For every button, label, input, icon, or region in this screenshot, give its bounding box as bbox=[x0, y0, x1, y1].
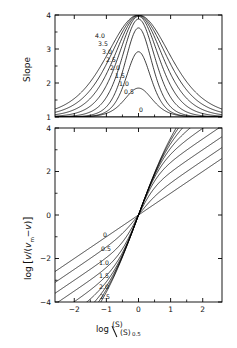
ytick-label: 1 bbox=[46, 113, 51, 122]
xlabel-log: log bbox=[96, 324, 109, 334]
xtick-label: 2 bbox=[200, 305, 205, 314]
ytick-label: 2 bbox=[46, 79, 51, 88]
top-panel-frame bbox=[55, 15, 222, 117]
top-panel: 1234 bbox=[46, 11, 222, 122]
ytick-label: −4 bbox=[40, 298, 51, 307]
top-curve-label-3.0: 3.0 bbox=[102, 48, 112, 55]
ylabel-vm-sub: m bbox=[29, 237, 35, 242]
xtick-label: 0 bbox=[136, 305, 141, 314]
xtick-label: −1 bbox=[101, 305, 112, 314]
top-curve-4.0 bbox=[55, 15, 222, 109]
ytick-label: 4 bbox=[46, 124, 51, 133]
bottom-curve-label-2.0: 2.0 bbox=[99, 283, 109, 290]
top-curve-label-3.5: 3.5 bbox=[98, 40, 108, 47]
top-curve-label-0.5: 0.5 bbox=[124, 88, 134, 95]
bottom-panel: −4−2024−2−1012 bbox=[40, 106, 222, 323]
bottom-curve-label-1.5: 1.5 bbox=[99, 272, 109, 279]
top-curve-2.5 bbox=[55, 16, 222, 116]
top-curve-label-4.0: 4.0 bbox=[95, 32, 105, 39]
figure-canvas: 1234 −4−2024−2−1012 bbox=[0, 0, 237, 348]
xlabel-denominator: (S) bbox=[120, 328, 131, 337]
bottom-panel-ylabel: log [v/(vm−v)] bbox=[21, 217, 35, 280]
ylabel-vm: v bbox=[23, 243, 33, 248]
bottom-curve-4.0 bbox=[86, 106, 191, 323]
ytick-label: 4 bbox=[46, 11, 51, 20]
xtick-label: −2 bbox=[69, 305, 80, 314]
top-curve-label-1.5: 1.5 bbox=[115, 72, 125, 79]
top-curve-label-0: 0 bbox=[139, 106, 143, 113]
top-curve-label-1.0: 1.0 bbox=[119, 80, 129, 87]
ylabel-numerator: v bbox=[23, 254, 33, 259]
top-curve-1.5 bbox=[55, 28, 222, 117]
bottom-curve-label-0.5: 0.5 bbox=[101, 245, 111, 252]
top-curve-2.0 bbox=[55, 19, 222, 117]
top-curve-3.5 bbox=[55, 15, 222, 112]
ytick-label: 0 bbox=[46, 211, 51, 220]
xaxis-label: log (S) (S) 0.5 bbox=[96, 322, 139, 337]
bottom-curve-label-1.0: 1.0 bbox=[99, 259, 109, 266]
ylabel-minus: − bbox=[23, 230, 33, 238]
xlabel-subscript: 0.5 bbox=[132, 331, 141, 337]
xtick-label: 1 bbox=[168, 305, 173, 314]
top-curve-label-2.5: 2.5 bbox=[106, 56, 116, 63]
ytick-label: 2 bbox=[46, 167, 51, 176]
bottom-curve-label-0: 0 bbox=[103, 231, 107, 238]
ylabel-log: log bbox=[23, 266, 33, 280]
ytick-label: 3 bbox=[46, 45, 51, 54]
bottom-panel-curves bbox=[55, 106, 222, 323]
top-panel-ylabel: Slope bbox=[22, 57, 32, 82]
top-panel-curves bbox=[55, 15, 222, 117]
bottom-curve-label-2.5: 2.5 bbox=[100, 293, 110, 300]
top-curve-label-2.0: 2.0 bbox=[110, 64, 120, 71]
ylabel-v: v bbox=[23, 224, 33, 229]
ytick-label: −2 bbox=[40, 254, 51, 263]
top-curve-3.0 bbox=[55, 16, 222, 115]
